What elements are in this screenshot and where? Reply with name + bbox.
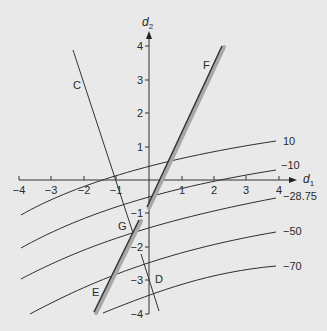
- y-tick-label: 2: [137, 107, 143, 119]
- x-axis-arrow-icon: [289, 177, 297, 183]
- contour-label: 10: [283, 135, 295, 147]
- y-tick-label: −4: [130, 308, 143, 320]
- contour-label: −10: [281, 159, 300, 171]
- y-tick-label: 3: [137, 74, 143, 86]
- contour-label: −70: [283, 260, 302, 272]
- y-tick-label: −3: [130, 274, 143, 286]
- x-axis-ticks: −4−3−2−11234: [13, 176, 282, 196]
- contour-curve: [103, 266, 276, 313]
- y-axis-title: d2: [142, 15, 154, 31]
- y-tick-label: 1: [137, 141, 143, 153]
- line-label-d: D: [155, 273, 163, 285]
- contour-label: −28.75: [283, 190, 317, 202]
- x-tick-label: −4: [13, 184, 26, 196]
- y-tick-label: −1: [130, 207, 143, 219]
- constraint-line-f: [147, 46, 222, 207]
- y-axis-arrow-icon: [146, 31, 152, 39]
- x-tick-label: 3: [243, 184, 249, 196]
- axes: −4−3−2−11234 4321−1−2−3−4 d1 d2: [13, 15, 315, 320]
- contour-curve: [30, 232, 276, 314]
- optimization-diagram: 10−10−28.75−50−70 −4−3−2−11234 4321−1−2−…: [0, 0, 327, 331]
- x-tick-label: 1: [179, 184, 185, 196]
- line-label-c: C: [73, 79, 81, 91]
- contour-label: −50: [283, 225, 302, 237]
- line-shadow: [96, 221, 141, 313]
- points: G: [118, 220, 127, 232]
- x-axis-title: d1: [303, 172, 315, 188]
- point-label-g: G: [118, 220, 127, 232]
- y-tick-label: 4: [137, 40, 143, 52]
- line-label-e: E: [92, 286, 99, 298]
- constraint-line-c: [73, 50, 134, 236]
- x-tick-label: −3: [45, 184, 58, 196]
- x-tick-label: 2: [211, 184, 217, 196]
- line-label-f: F: [203, 59, 210, 71]
- x-tick-label: −2: [78, 184, 91, 196]
- x-tick-label: 4: [276, 184, 282, 196]
- constraint-line-e: [94, 220, 139, 312]
